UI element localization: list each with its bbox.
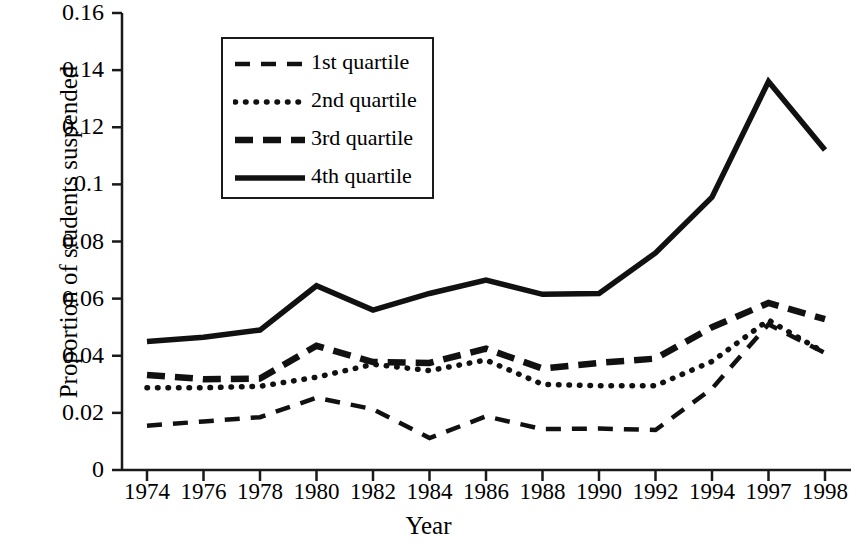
series-line-3rd-quartile	[147, 303, 825, 379]
y-tick-label: 0.02	[26, 400, 104, 424]
chart-figure: Proportion of students suspended 00.020.…	[0, 0, 857, 552]
x-axis-tick-labels: 1974197619781980198219841986198819901992…	[0, 478, 857, 512]
legend-line-sample	[233, 60, 307, 66]
legend-entry: 3rd quartile	[223, 119, 436, 157]
legend-line-sample	[233, 136, 307, 142]
legend-label: 4th quartile	[311, 161, 412, 191]
y-tick-label: 0.06	[26, 286, 104, 310]
y-tick-label: 0.12	[26, 114, 104, 138]
legend-label: 3rd quartile	[311, 123, 413, 153]
y-axis-tick-labels: 00.020.040.060.080.10.120.140.16	[26, 0, 104, 552]
legend-entry: 4th quartile	[223, 157, 436, 195]
y-tick-label: 0.1	[26, 171, 104, 195]
y-tick-label: 0.08	[26, 229, 104, 253]
legend: 1st quartile2nd quartile3rd quartile4th …	[221, 37, 434, 199]
legend-label: 2nd quartile	[311, 85, 417, 115]
y-tick-label: 0.14	[26, 57, 104, 81]
legend-entry: 2nd quartile	[223, 81, 436, 119]
x-tick-label: 1998	[792, 478, 857, 506]
y-tick-label: 0.16	[26, 0, 104, 24]
legend-entry: 1st quartile	[223, 43, 436, 81]
x-axis-title: Year	[0, 512, 857, 540]
y-axis-ticks	[112, 13, 122, 470]
legend-line-sample	[233, 98, 307, 104]
legend-line-sample	[233, 174, 307, 180]
y-tick-label: 0.04	[26, 343, 104, 367]
legend-label: 1st quartile	[311, 47, 409, 77]
